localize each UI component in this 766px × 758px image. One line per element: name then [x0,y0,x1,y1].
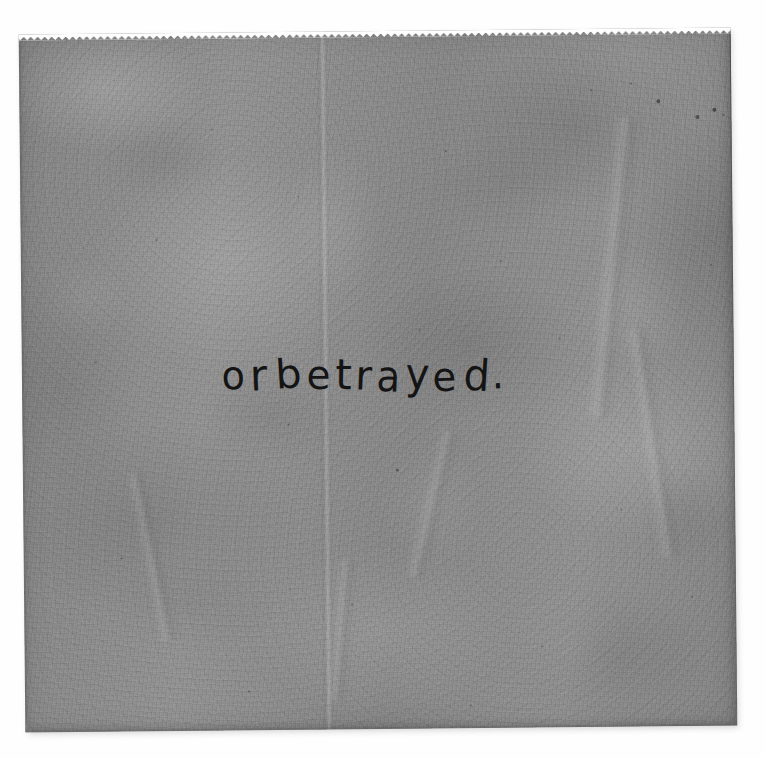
paper-pinked-top-edge [19,28,733,41]
paper-speck-layer [19,28,731,35]
paper-speck [712,107,717,112]
paper-right-edge-shadow [730,34,738,716]
paper-mottling [19,28,738,733]
paper-speck [691,596,693,598]
paper-speck [210,128,212,130]
paper-speck [656,99,660,103]
paper-speck [541,645,544,648]
paper-speck [470,704,472,706]
paper-sheet [19,28,740,735]
paper-speck [722,113,725,116]
paper-wrinkle [585,117,643,418]
paper-wrinkle [404,429,462,580]
paper-speck [287,424,290,427]
paper-speck [395,468,398,471]
paper-fibre-grain-layer-2 [19,28,738,733]
paper-wrinkle [327,560,358,701]
paper-speck [120,557,123,560]
paper-speck [95,362,97,364]
paper-speck [620,508,622,510]
artwork-canvas: orbetrayed. [0,0,766,758]
paper-speck [445,150,447,152]
paper-speck [590,89,592,91]
paper-speck [418,329,420,331]
paper-wrinkle-layer [19,28,731,35]
vertical-fold-crease [317,28,335,733]
paper-speck [630,82,633,85]
paper-speck [709,263,712,266]
paper-wrinkle [624,327,684,558]
paper-speck [696,115,699,118]
paper-surface [19,28,738,733]
paper-wrinkle [125,472,181,643]
paper-speck [248,690,251,693]
paper-speck [500,260,502,262]
paper-edge-vignette [19,28,738,733]
paper-speck [351,603,353,605]
paper-left-edge-shadow [19,42,28,724]
paper-fibre-grain-layer-3 [19,28,738,733]
paper-speck [558,337,560,339]
paper-speck [155,239,158,242]
paper-speck [297,196,299,198]
paper-fibre-grain-layer-1 [19,28,738,733]
